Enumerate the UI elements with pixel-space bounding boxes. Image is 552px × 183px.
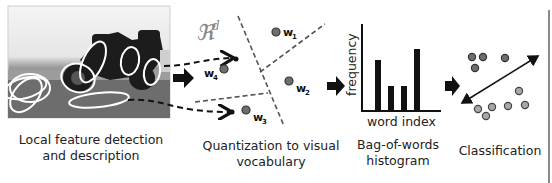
caption-line: vocabulary xyxy=(196,154,346,170)
caption-local-features: Local feature detection and description xyxy=(6,132,176,164)
feature-point xyxy=(230,110,235,115)
block-arrow-3 xyxy=(445,76,460,96)
visual-word-w4: w 4 xyxy=(204,65,228,82)
block-arrow-1 xyxy=(173,68,194,88)
svg-text:2: 2 xyxy=(305,89,310,97)
class-a-points xyxy=(468,53,508,71)
svg-text:1: 1 xyxy=(292,33,297,41)
visual-word-w2: w 2 xyxy=(285,77,310,97)
motorbike-photo xyxy=(1,6,170,118)
histogram-bar-2 xyxy=(388,86,394,111)
block-arrow-2 xyxy=(327,76,345,96)
svg-text:4: 4 xyxy=(213,74,218,82)
feature-point xyxy=(234,57,239,62)
real-space-superscript: d xyxy=(212,19,220,33)
visual-word-w3: w 3 xyxy=(242,106,267,126)
bow-histogram xyxy=(362,24,441,111)
decision-boundary-arrow xyxy=(462,56,538,103)
caption-line: Classification xyxy=(455,143,545,159)
caption-line: Bag-of-words xyxy=(348,137,448,153)
caption-line: Quantization to visual xyxy=(196,138,346,154)
histogram-ylabel: frequency xyxy=(344,33,359,96)
feature-space: ℜ d w 1 w 2 w xyxy=(195,16,325,126)
class-b-points xyxy=(474,87,528,119)
right-border-line xyxy=(548,10,550,183)
classification-plot xyxy=(462,53,538,119)
caption-line: and description xyxy=(6,148,176,164)
svg-text:3: 3 xyxy=(262,118,267,126)
histogram-bar-4 xyxy=(414,49,420,111)
histogram-bar-3 xyxy=(401,86,407,111)
histogram-xlabel: word index xyxy=(367,114,436,129)
histogram-bar-1 xyxy=(375,60,381,111)
visual-word-w1: w 1 xyxy=(272,26,297,41)
caption-quantization: Quantization to visual vocabulary xyxy=(196,138,346,170)
caption-histogram: Bag-of-words histogram xyxy=(348,137,448,169)
caption-line: histogram xyxy=(348,153,448,169)
caption-line: Local feature detection xyxy=(6,132,176,148)
bag-of-words-diagram: ℜ d w 1 w 2 w xyxy=(0,0,552,183)
caption-classification: Classification xyxy=(455,143,545,159)
